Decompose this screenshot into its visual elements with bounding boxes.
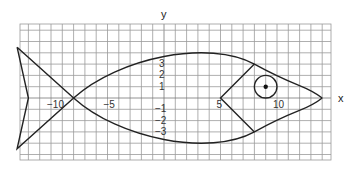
y-tick-label: −3 — [155, 127, 166, 137]
x-tick-label: 5 — [217, 100, 223, 110]
x-axis-label: x — [338, 93, 344, 103]
y-tick-label: 1 — [159, 82, 165, 92]
y-tick-label: 2 — [159, 70, 165, 80]
y-axis-label: y — [161, 9, 167, 19]
x-tick-label: 10 — [273, 100, 284, 110]
y-tick-label: −2 — [155, 116, 166, 126]
y-tick-label: −1 — [155, 104, 166, 114]
x-tick-label: −5 — [104, 100, 115, 110]
y-tick-label: 3 — [159, 59, 165, 69]
x-tick-label: −10 — [47, 100, 64, 110]
fish-diagram — [0, 0, 360, 170]
fish-pupil-icon — [264, 85, 268, 89]
